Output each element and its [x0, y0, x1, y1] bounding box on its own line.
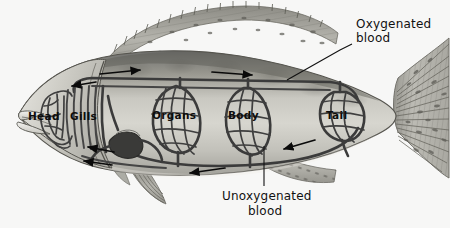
oxygenated-line2: blood: [356, 31, 390, 45]
oxygenated-line1: Oxygenated: [356, 17, 431, 31]
label-body: Body: [228, 109, 259, 121]
label-tail: Tail: [326, 109, 347, 121]
diagram-canvas: Head Gills Organs Body Tail Oxygenated b…: [0, 0, 450, 228]
fish-circulatory-diagram: Head Gills Organs Body Tail Oxygenated b…: [0, 0, 450, 228]
label-head: Head: [28, 110, 60, 122]
unoxygenated-line2: blood: [248, 204, 282, 218]
label-gills: Gills: [70, 110, 97, 122]
unoxygenated-line1: Unoxygenated: [222, 189, 312, 203]
label-organs: Organs: [152, 109, 196, 121]
